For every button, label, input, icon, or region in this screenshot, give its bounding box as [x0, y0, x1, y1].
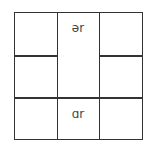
cell-label-bottom-center: ɑr	[57, 107, 99, 121]
phoneme-grid: ər ɑr	[14, 12, 143, 140]
grid-divider-horizontal-2	[15, 97, 142, 99]
cell-label-top-center: ər	[57, 21, 99, 35]
grid-divider-left-1	[15, 55, 57, 57]
grid-divider-right-1	[100, 55, 142, 57]
